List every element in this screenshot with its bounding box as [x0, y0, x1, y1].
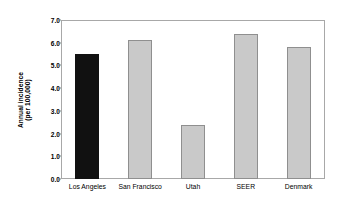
- x-axis-tick-label: Denmark: [285, 183, 313, 190]
- x-axis-tick-label: San Francisco: [118, 183, 161, 190]
- bar-slot: [128, 20, 152, 179]
- x-axis-tick-labels: Los AngelesSan FranciscoUtahSEERDenmark: [61, 183, 325, 199]
- y-axis-tick-mark: [58, 133, 61, 134]
- y-axis-tick-label: 7.0: [38, 17, 60, 24]
- bar-slot: [75, 20, 99, 179]
- bar: [234, 34, 258, 179]
- bar: [181, 125, 205, 180]
- y-axis-tick-mark: [58, 20, 61, 21]
- y-axis-tick-label: 3.0: [38, 107, 60, 114]
- y-axis-tick-label: 4.0: [38, 85, 60, 92]
- y-axis-tick-mark: [58, 65, 61, 66]
- y-axis-tick-mark: [58, 42, 61, 43]
- bar-slot: [287, 20, 311, 179]
- y-axis-tick-mark: [58, 156, 61, 157]
- x-axis-tick-label: SEER: [237, 183, 256, 190]
- y-axis-title: Annual incidence (per 100,000): [14, 20, 36, 180]
- bar: [287, 47, 311, 179]
- y-axis-tick-label: 2.0: [38, 130, 60, 137]
- y-axis-title-line-2: (per 100,000): [25, 79, 32, 121]
- y-axis-tick-label: 0.0: [38, 176, 60, 183]
- x-axis-tick-label: Utah: [186, 183, 200, 190]
- bar: [75, 54, 99, 179]
- y-axis-tick-mark: [58, 110, 61, 111]
- bar-slot: [234, 20, 258, 179]
- bar-chart-figure: Annual incidence (per 100,000) 0.01.02.0…: [0, 0, 348, 205]
- x-axis-tick-label: Los Angeles: [69, 183, 106, 190]
- bar-slot: [181, 20, 205, 179]
- bar: [128, 40, 152, 179]
- y-axis-tick-label: 6.0: [38, 39, 60, 46]
- y-axis-tick-label: 1.0: [38, 153, 60, 160]
- y-axis-tick-labels: 0.01.02.03.04.05.06.07.0: [38, 0, 60, 205]
- y-axis-tick-label: 5.0: [38, 62, 60, 69]
- bars-layer: [61, 20, 325, 179]
- y-axis-tick-mark: [58, 179, 61, 180]
- y-axis-tick-mark: [58, 88, 61, 89]
